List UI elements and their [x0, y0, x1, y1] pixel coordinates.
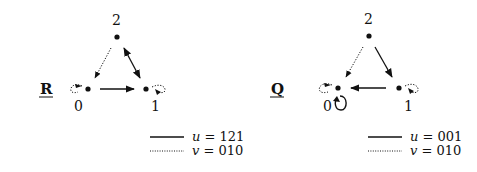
graph-r-node-1	[143, 86, 148, 91]
graph-q: Q 2 0 1 u = 001 v = 010	[270, 11, 462, 158]
graph-q-edge-2-1	[375, 47, 392, 77]
graph-r-node-2-label: 2	[112, 12, 121, 28]
graph-r-title: R	[40, 80, 53, 98]
graph-q-node-0	[335, 85, 340, 90]
graph-q-node-2	[366, 33, 371, 38]
graph-q-title: Q	[271, 80, 284, 98]
legend-v: v = 010	[410, 143, 461, 158]
graph-q-loop-0-arrow-icon	[324, 83, 331, 87]
legend-u: u = 121	[192, 129, 244, 144]
graph-r-edge-2-0	[95, 48, 111, 78]
graph-r-edge-2-1	[124, 48, 140, 78]
legend-v: v = 010	[192, 143, 243, 158]
graph-q-loop-0-solid-arrow-icon	[333, 96, 340, 102]
graph-r-node-1-label: 1	[151, 98, 160, 114]
graph-r-node-0	[85, 86, 90, 91]
graph-q-node-0-label: 0	[323, 98, 332, 114]
graph-r-node-2	[114, 34, 119, 39]
graph-r-legend: u = 121 v = 010	[150, 129, 244, 158]
graph-r-loop-1-arrow-icon	[155, 89, 161, 95]
diagram-canvas: R 2 0 1 u = 121 v = 010 Q 2	[0, 0, 477, 172]
graph-q-loop-1-arrow-icon	[408, 88, 414, 94]
graph-r-node-0-label: 0	[74, 98, 83, 114]
graph-q-edge-2-0	[346, 47, 363, 77]
graph-q-node-2-label: 2	[364, 11, 373, 27]
graph-q-legend: u = 001 v = 010	[368, 129, 462, 158]
legend-u: u = 001	[410, 129, 462, 144]
graph-q-node-1-label: 1	[404, 98, 413, 114]
graph-q-node-1	[396, 85, 401, 90]
graph-r: R 2 0 1 u = 121 v = 010	[39, 12, 244, 158]
